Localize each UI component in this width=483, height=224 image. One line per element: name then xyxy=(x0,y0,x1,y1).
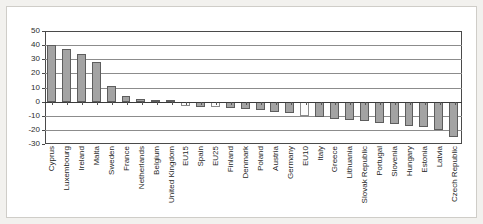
x-tick-label: Estonia xyxy=(421,146,429,173)
x-tick-label: Luxembourg xyxy=(63,146,71,190)
x-tick-label: Finland xyxy=(227,146,235,172)
bar-slot xyxy=(209,31,224,144)
x-tick-mark xyxy=(335,102,336,105)
x-axis-labels: CyprusLuxembourgIrelandMaltaSwedenFrance… xyxy=(45,146,462,224)
x-tick-mark xyxy=(276,102,277,105)
x-tick-label: Hungary xyxy=(406,146,414,176)
y-tick-label: 20 xyxy=(31,69,40,77)
bar-slot xyxy=(373,31,388,144)
bar-slot xyxy=(417,31,432,144)
y-tick-label: -20 xyxy=(28,126,40,134)
bar-slot xyxy=(447,31,462,144)
bar-slot xyxy=(60,31,75,144)
bar-slot xyxy=(343,31,358,144)
bar xyxy=(47,45,56,102)
bar-slot xyxy=(358,31,373,144)
x-tick-mark xyxy=(425,102,426,105)
x-tick-label: Cyprus xyxy=(48,146,56,171)
plot-area: 50403020100-10-20-30 xyxy=(45,31,462,144)
x-tick-mark xyxy=(261,102,262,105)
x-tick-label: Germany xyxy=(287,146,295,179)
x-tick-mark xyxy=(291,102,292,105)
x-tick-mark xyxy=(201,102,202,105)
bar xyxy=(375,102,384,123)
x-tick-label: Netherlands xyxy=(138,146,146,189)
x-tick-label: EU10 xyxy=(302,146,310,166)
figure-outer-frame: 50403020100-10-20-30 CyprusLuxembourgIre… xyxy=(0,0,483,224)
bar-slot xyxy=(268,31,283,144)
x-tick-mark xyxy=(380,102,381,105)
bar-slot xyxy=(283,31,298,144)
bar-slot xyxy=(75,31,90,144)
x-tick-mark xyxy=(440,102,441,105)
x-tick-mark xyxy=(455,102,456,105)
y-tick-label: 0 xyxy=(36,98,40,106)
x-tick-label: Austria xyxy=(272,146,280,171)
x-tick-mark xyxy=(365,102,366,105)
bars-group xyxy=(45,31,462,144)
bar xyxy=(405,102,414,126)
x-tick-label: Denmark xyxy=(242,146,250,178)
bar-slot xyxy=(402,31,417,144)
x-tick-label: EU25 xyxy=(212,146,220,166)
x-tick-label: Lithuania xyxy=(346,146,354,178)
bar-slot xyxy=(164,31,179,144)
y-tick-label: -30 xyxy=(28,140,40,148)
chart-panel: 50403020100-10-20-30 CyprusLuxembourgIre… xyxy=(6,6,477,218)
zero-axis-line xyxy=(45,102,462,103)
bar xyxy=(390,102,399,125)
bar xyxy=(419,102,428,127)
bar-slot xyxy=(134,31,149,144)
bar-slot xyxy=(298,31,313,144)
x-tick-label: France xyxy=(123,146,131,171)
bar-slot xyxy=(45,31,60,144)
x-tick-mark xyxy=(67,102,68,105)
bar-slot xyxy=(179,31,194,144)
x-tick-mark xyxy=(52,102,53,105)
x-tick-label: Slovenia xyxy=(391,146,399,177)
bar xyxy=(92,62,101,102)
bar-slot xyxy=(388,31,403,144)
bar-slot xyxy=(254,31,269,144)
x-tick-mark xyxy=(321,102,322,105)
x-tick-mark xyxy=(186,102,187,105)
bar-slot xyxy=(432,31,447,144)
bar xyxy=(434,102,443,130)
y-tick-label: 30 xyxy=(31,55,40,63)
x-tick-label: Czech Republic xyxy=(451,146,459,202)
x-tick-label: Ireland xyxy=(78,146,86,170)
x-tick-mark xyxy=(97,102,98,105)
x-tick-mark xyxy=(231,102,232,105)
bar-slot xyxy=(328,31,343,144)
bar xyxy=(62,49,71,101)
x-tick-label: United Kingdom xyxy=(168,146,176,203)
x-tick-label: Italy xyxy=(317,146,325,161)
bar-slot xyxy=(149,31,164,144)
x-tick-mark xyxy=(410,102,411,105)
x-tick-mark xyxy=(112,102,113,105)
bar xyxy=(77,54,86,101)
x-tick-label: Belgium xyxy=(153,146,161,175)
x-tick-mark xyxy=(157,102,158,105)
y-tick-mark xyxy=(42,144,45,145)
x-tick-mark xyxy=(395,102,396,105)
bar-slot xyxy=(105,31,120,144)
x-tick-mark xyxy=(172,102,173,105)
y-tick-label: -10 xyxy=(28,112,40,120)
bar-slot xyxy=(90,31,105,144)
bar-slot xyxy=(119,31,134,144)
bar-slot xyxy=(194,31,209,144)
x-tick-label: Malta xyxy=(93,146,101,166)
y-tick-label: 50 xyxy=(31,27,40,35)
x-tick-label: Poland xyxy=(257,146,265,171)
x-tick-mark xyxy=(306,102,307,105)
bar-slot xyxy=(239,31,254,144)
bar-slot xyxy=(313,31,328,144)
bar-slot xyxy=(224,31,239,144)
x-tick-mark xyxy=(142,102,143,105)
y-tick-label: 10 xyxy=(31,84,40,92)
x-tick-mark xyxy=(82,102,83,105)
bar xyxy=(107,86,116,102)
x-tick-label: Portugal xyxy=(376,146,384,176)
y-tick-label: 40 xyxy=(31,41,40,49)
